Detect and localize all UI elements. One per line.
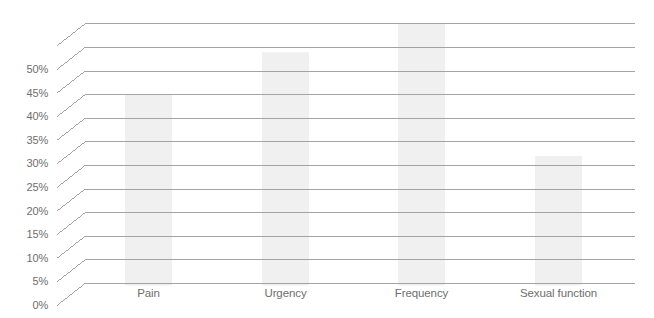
bar-pain xyxy=(125,95,172,286)
x-tick-label-pain: Pain xyxy=(137,287,160,299)
y-tick-label-0: 0% xyxy=(33,299,49,311)
bar-chart: 0%5%10%15%20%25%30%35%40%45%50% PainUrge… xyxy=(0,0,654,318)
chart-canvas: 0%5%10%15%20%25%30%35%40%45%50% PainUrge… xyxy=(0,0,654,318)
x-tick-label-sexual-function: Sexual function xyxy=(520,287,597,299)
y-tick-label-35: 35% xyxy=(27,134,49,146)
bar-sexual-function xyxy=(535,156,582,285)
y-tick-label-30: 30% xyxy=(27,157,49,169)
y-tick-label-45: 45% xyxy=(27,87,49,99)
y-tick-label-10: 10% xyxy=(27,252,49,264)
y-tick-label-40: 40% xyxy=(27,110,49,122)
bar-frequency xyxy=(398,24,445,286)
y-tick-label-25: 25% xyxy=(27,181,49,193)
y-tick-label-5: 5% xyxy=(33,275,49,287)
bar-urgency xyxy=(262,52,309,285)
x-tick-label-frequency: Frequency xyxy=(395,287,449,299)
y-tick-label-50: 50% xyxy=(27,63,49,75)
y-tick-label-15: 15% xyxy=(27,228,49,240)
y-tick-label-20: 20% xyxy=(27,205,49,217)
x-tick-label-urgency: Urgency xyxy=(264,287,306,299)
